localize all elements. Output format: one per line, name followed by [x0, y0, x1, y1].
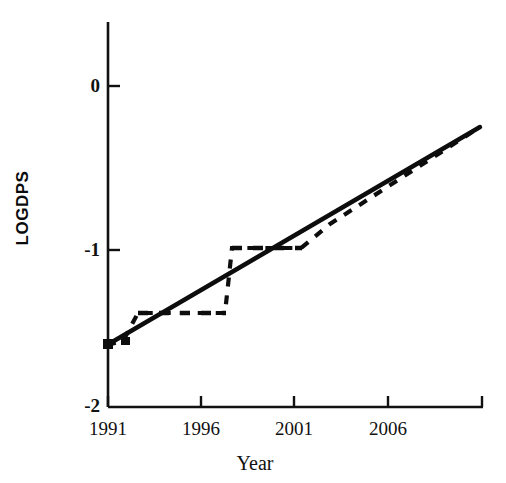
y-tick-label-minus1: -1 — [60, 240, 100, 259]
second-point-marker — [121, 337, 130, 345]
y-axis-title: LOGDPS — [13, 158, 33, 258]
y-tick-label-0: 0 — [60, 76, 100, 95]
x-tick-label-1996: 1996 — [166, 419, 236, 438]
x-tick-label-2001: 2001 — [259, 419, 329, 438]
series-trend-solid — [107, 127, 480, 345]
chart-figure: 0 -1 -2 1991 1996 2001 2006 LOGDPS Year — [0, 0, 506, 483]
x-axis-title: Year — [210, 452, 300, 475]
y-tick-label-minus2: -2 — [60, 396, 100, 415]
x-tick-label-2006: 2006 — [353, 419, 423, 438]
x-tick-label-1991: 1991 — [73, 419, 143, 438]
start-point-marker — [103, 339, 113, 349]
